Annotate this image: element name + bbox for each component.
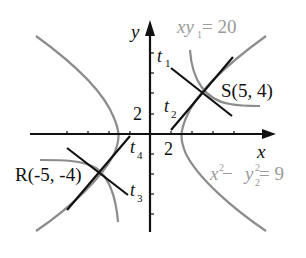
svg-text:xy: xy (176, 16, 194, 37)
svg-text:y: y (243, 163, 254, 184)
svg-text:t: t (157, 46, 163, 66)
curve-label-xy-20: xy 1 = 20 (176, 16, 236, 40)
svg-text:1: 1 (165, 57, 171, 69)
x-tick-label-2: 2 (164, 139, 173, 159)
tangent-label-t1: t 1 (157, 46, 171, 69)
y-tick-label-2: 2 (133, 104, 142, 124)
svg-text:2: 2 (171, 108, 177, 120)
diagram-canvas: y x 2 2 t 1 t 2 t 4 t 3 S(5, 4) R(-5, -4… (0, 0, 306, 258)
svg-text:x: x (209, 163, 219, 184)
svg-text:t: t (130, 180, 136, 200)
tangent-label-t2: t 2 (164, 96, 177, 120)
svg-text:4: 4 (137, 149, 143, 161)
tangent-label-t3: t 3 (130, 180, 143, 204)
x-axis-arrow-icon (262, 129, 276, 139)
x-axis-label: x (256, 141, 266, 162)
svg-text:3: 3 (137, 192, 143, 204)
y-axis-arrow-icon (145, 20, 155, 36)
tangent-label-t4: t 4 (130, 137, 143, 161)
svg-text:t: t (130, 137, 136, 157)
svg-text:−: − (222, 163, 233, 184)
curve-label-x2-y2-9: x 2 − y 2 2 = 9 (209, 162, 284, 188)
point-label-r: R(-5, -4) (15, 164, 81, 186)
svg-text:= 20: = 20 (202, 16, 236, 37)
y-axis-label: y (129, 21, 140, 42)
svg-text:t: t (164, 96, 170, 116)
point-label-s: S(5, 4) (221, 80, 273, 102)
svg-text:= 9: = 9 (259, 163, 284, 184)
